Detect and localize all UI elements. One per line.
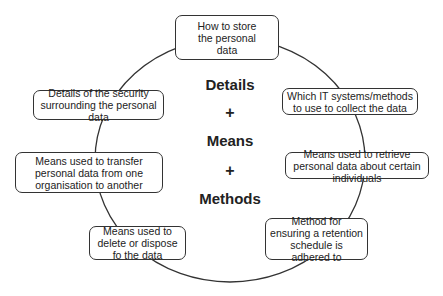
node-store: How to store the personal data bbox=[175, 15, 279, 60]
center-methods: Methods bbox=[160, 190, 300, 207]
node-delete: Means used to delete or dispose fo the d… bbox=[89, 226, 186, 260]
node-transfer: Means used to transfer personal data fro… bbox=[15, 152, 163, 193]
node-security: Details of the security surrounding the … bbox=[33, 90, 164, 120]
center-details: Details bbox=[160, 76, 300, 93]
center-plus-2: + bbox=[160, 162, 300, 180]
node-retention: Method for ensuring a retention schedule… bbox=[265, 218, 368, 260]
center-means: Means bbox=[160, 132, 300, 149]
node-collect: Which IT systems/methods to use to colle… bbox=[282, 88, 418, 115]
node-retrieve: Means used to retrieve personal data abo… bbox=[285, 152, 429, 179]
center-plus-1: + bbox=[160, 104, 300, 122]
